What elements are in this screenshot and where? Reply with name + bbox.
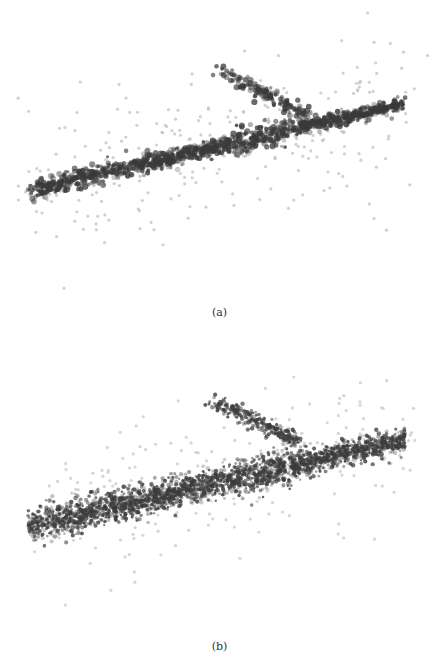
caption-a: (a) [0,306,439,319]
subfigure-b: (b) [0,330,439,664]
subfigure-a: (a) [0,0,439,330]
point-cloud-plot-a [0,0,439,300]
point-cloud-plot-b [0,330,439,630]
caption-b: (b) [0,640,439,653]
